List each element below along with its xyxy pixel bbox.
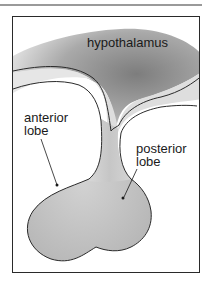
label-anterior-lobe: lobe (24, 124, 49, 137)
label-hypothalamus: hypothalamus (87, 36, 168, 49)
top-rule (0, 4, 202, 6)
anterior-pointer-line (41, 139, 57, 185)
posterior-pointer-dot (122, 197, 125, 200)
anterior-pointer-dot (56, 184, 59, 187)
pituitary-bulb (27, 119, 151, 261)
label-posterior-lobe: lobe (136, 155, 161, 168)
